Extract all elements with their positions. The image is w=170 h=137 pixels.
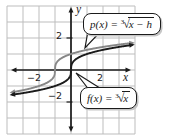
p-radicand: x − h [128,17,154,30]
x-axis-letter: x [123,72,128,83]
cube-root-translation-graph: 2 −2 −2 2 y x p(x) = 3√x − h f(x) = 3√x [0,0,170,137]
cube-root-expression: 3√x [115,89,130,106]
p-formula-prefix: p(x) = [90,18,121,30]
callout-f-function: f(x) = 3√x [80,87,137,109]
y-axis-letter: y [76,4,81,15]
f-radicand: x [122,91,130,104]
x-tick-label-2: 2 [92,73,108,83]
x-tick-label-neg2: −2 [26,73,42,83]
f-formula-prefix: f(x) = [87,92,115,104]
y-tick-label-neg2: −2 [46,91,62,101]
y-tick-label-2: 2 [46,31,62,41]
callout-p-function: p(x) = 3√x − h [83,13,161,35]
cube-root-expression: 3√x − h [121,15,154,32]
